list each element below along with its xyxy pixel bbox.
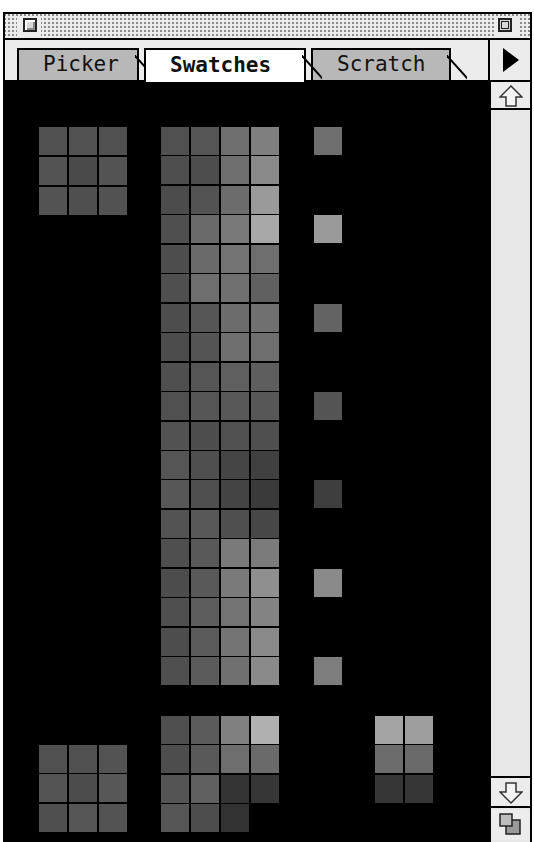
color-swatch[interactable] — [314, 569, 342, 597]
color-swatch[interactable] — [251, 127, 279, 155]
color-swatch[interactable] — [191, 569, 219, 597]
color-swatch[interactable] — [191, 215, 219, 243]
color-swatch[interactable] — [221, 775, 249, 803]
color-swatch[interactable] — [191, 127, 219, 155]
color-swatch[interactable] — [99, 745, 127, 773]
color-swatch[interactable] — [39, 127, 67, 155]
color-swatch[interactable] — [161, 598, 189, 626]
color-swatch[interactable] — [251, 215, 279, 243]
color-swatch[interactable] — [69, 774, 97, 802]
color-swatch[interactable] — [191, 598, 219, 626]
color-swatch[interactable] — [251, 775, 279, 803]
color-swatch[interactable] — [99, 187, 127, 215]
color-swatch[interactable] — [161, 657, 189, 685]
color-swatch[interactable] — [221, 274, 249, 302]
color-swatch[interactable] — [221, 451, 249, 479]
color-swatch[interactable] — [251, 245, 279, 273]
color-swatch[interactable] — [221, 363, 249, 391]
color-swatch[interactable] — [251, 480, 279, 508]
color-swatch[interactable] — [251, 716, 279, 744]
color-swatch[interactable] — [221, 539, 249, 567]
scroll-track[interactable] — [491, 110, 530, 776]
color-swatch[interactable] — [39, 804, 67, 832]
palette-menu-button[interactable] — [488, 40, 530, 80]
color-swatch[interactable] — [251, 598, 279, 626]
color-swatch[interactable] — [221, 422, 249, 450]
color-swatch[interactable] — [221, 716, 249, 744]
color-swatch[interactable] — [191, 363, 219, 391]
color-swatch[interactable] — [39, 774, 67, 802]
color-swatch[interactable] — [161, 539, 189, 567]
color-swatch[interactable] — [191, 775, 219, 803]
color-swatch[interactable] — [405, 775, 433, 803]
color-swatch[interactable] — [191, 716, 219, 744]
color-swatch[interactable] — [314, 480, 342, 508]
color-swatch[interactable] — [161, 480, 189, 508]
color-swatch[interactable] — [251, 422, 279, 450]
color-swatch[interactable] — [251, 274, 279, 302]
color-swatch[interactable] — [221, 804, 249, 832]
color-swatch[interactable] — [191, 745, 219, 773]
color-swatch[interactable] — [221, 392, 249, 420]
color-swatch[interactable] — [191, 657, 219, 685]
color-swatch[interactable] — [251, 156, 279, 184]
color-swatch[interactable] — [314, 392, 342, 420]
close-box-icon[interactable] — [23, 18, 37, 32]
color-swatch[interactable] — [375, 716, 403, 744]
color-swatch[interactable] — [314, 215, 342, 243]
scroll-up-button[interactable] — [491, 82, 530, 110]
color-swatch[interactable] — [99, 127, 127, 155]
color-swatch[interactable] — [221, 480, 249, 508]
color-swatch[interactable] — [221, 245, 249, 273]
vertical-scrollbar[interactable] — [489, 82, 530, 842]
color-swatch[interactable] — [161, 363, 189, 391]
color-swatch[interactable] — [69, 804, 97, 832]
color-swatch[interactable] — [161, 304, 189, 332]
color-swatch[interactable] — [39, 187, 67, 215]
color-swatch[interactable] — [251, 186, 279, 214]
color-swatch[interactable] — [161, 569, 189, 597]
color-swatch[interactable] — [69, 187, 97, 215]
color-swatch[interactable] — [251, 392, 279, 420]
color-swatch[interactable] — [191, 392, 219, 420]
color-swatch[interactable] — [405, 716, 433, 744]
color-swatch[interactable] — [69, 745, 97, 773]
color-swatch[interactable] — [251, 628, 279, 656]
zoom-box-icon[interactable] — [498, 18, 512, 32]
color-swatch[interactable] — [191, 628, 219, 656]
tab-picker[interactable]: Picker — [17, 48, 139, 80]
color-swatch[interactable] — [161, 392, 189, 420]
color-swatch[interactable] — [221, 215, 249, 243]
color-swatch[interactable] — [221, 628, 249, 656]
color-swatch[interactable] — [375, 745, 403, 773]
color-swatch[interactable] — [161, 451, 189, 479]
color-swatch[interactable] — [161, 804, 189, 832]
color-swatch[interactable] — [221, 156, 249, 184]
color-swatch[interactable] — [314, 127, 342, 155]
color-swatch[interactable] — [191, 539, 219, 567]
color-swatch[interactable] — [161, 215, 189, 243]
color-swatch[interactable] — [191, 156, 219, 184]
color-swatch[interactable] — [161, 156, 189, 184]
color-swatch[interactable] — [191, 480, 219, 508]
color-swatch[interactable] — [161, 422, 189, 450]
color-swatch[interactable] — [221, 745, 249, 773]
color-swatch[interactable] — [191, 451, 219, 479]
color-swatch[interactable] — [251, 657, 279, 685]
color-swatch[interactable] — [251, 451, 279, 479]
tab-scratch[interactable]: Scratch — [311, 48, 451, 80]
title-bar[interactable] — [5, 14, 530, 40]
color-swatch[interactable] — [69, 127, 97, 155]
color-swatch[interactable] — [221, 510, 249, 538]
color-swatch[interactable] — [161, 716, 189, 744]
color-swatch[interactable] — [221, 186, 249, 214]
color-swatch[interactable] — [251, 539, 279, 567]
color-swatch[interactable] — [161, 186, 189, 214]
color-swatch[interactable] — [251, 745, 279, 773]
color-swatch[interactable] — [99, 157, 127, 185]
color-swatch[interactable] — [161, 127, 189, 155]
color-swatch[interactable] — [191, 245, 219, 273]
color-swatch[interactable] — [221, 569, 249, 597]
color-swatch[interactable] — [161, 274, 189, 302]
color-swatch[interactable] — [191, 804, 219, 832]
